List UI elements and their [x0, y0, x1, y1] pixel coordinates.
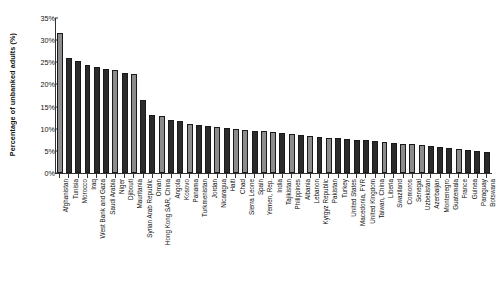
bar [140, 100, 146, 173]
bar [168, 120, 174, 173]
x-axis-tick-mark [254, 174, 255, 178]
x-axis-tick [371, 174, 380, 178]
x-axis-tick [157, 174, 166, 178]
x-axis-tick [352, 174, 361, 178]
x-axis-tick-mark [143, 174, 144, 178]
x-axis-tick [380, 174, 389, 178]
x-axis-tick-mark [152, 174, 153, 178]
x-axis-tick-mark [477, 174, 478, 178]
x-axis-tick [473, 174, 482, 178]
x-axis-tick-mark [291, 174, 292, 178]
x-axis-label-slot: Haiti [222, 179, 231, 287]
bar [363, 140, 369, 173]
x-axis-tick-mark [421, 174, 422, 178]
x-axis-tick [296, 174, 305, 178]
x-axis-tick [398, 174, 407, 178]
x-axis-tick-mark [133, 174, 134, 178]
x-axis-tick [204, 174, 213, 178]
bar-slot [408, 18, 417, 173]
x-axis-label-slot: Guatemala [445, 179, 454, 287]
x-axis-tick [176, 174, 185, 178]
bar-slot [315, 18, 324, 173]
bar-slot [92, 18, 101, 173]
x-axis-label-slot: Djibouti [120, 179, 129, 287]
x-axis-tick-mark [486, 174, 487, 178]
x-axis-label-slot: Tunisia [64, 179, 73, 287]
x-axis-tick-mark [189, 174, 190, 178]
bar-slot [157, 18, 166, 173]
bar-slot [74, 18, 83, 173]
x-axis-tick [417, 174, 426, 178]
x-axis-tick [315, 174, 324, 178]
x-axis-tick-mark [347, 174, 348, 178]
bar-slot [213, 18, 222, 173]
bar-slot [380, 18, 389, 173]
x-axis-label-slot: Niger [111, 179, 120, 287]
x-axis-tick-mark [226, 174, 227, 178]
x-axis-label-slot: Lebanon [306, 179, 315, 287]
x-axis-tick-mark [468, 174, 469, 178]
bar [298, 135, 304, 173]
x-axis-label-slot: Taiwan, China [371, 179, 380, 287]
x-axis-label-slot: Spain [250, 179, 259, 287]
x-axis-label-slot: India [268, 179, 277, 287]
bar [474, 151, 480, 173]
bar [409, 144, 415, 173]
x-axis-label-slot: Nicaragua [213, 179, 222, 287]
x-axis-tick [287, 174, 296, 178]
x-axis-label-slot: Montenegro [436, 179, 445, 287]
x-axis-tick-mark [430, 174, 431, 178]
x-axis-category-labels: AfghanistanTunisiaMoroccoIraqWest Bank a… [55, 179, 491, 287]
x-axis-tick [268, 174, 277, 178]
x-axis-tick [241, 174, 250, 178]
bar-slot [64, 18, 73, 173]
bar [326, 138, 332, 173]
bar-slot [101, 18, 110, 173]
x-axis-label-slot: Pakistan [324, 179, 333, 287]
bar-slot [306, 18, 315, 173]
y-axis-tick: 25% [41, 58, 55, 67]
x-axis-tick [361, 174, 370, 178]
x-axis-label-slot: Comoros [398, 179, 407, 287]
bar [196, 125, 202, 173]
x-axis-tick [306, 174, 315, 178]
x-axis-label-slot: Afghanistan [55, 179, 64, 287]
x-axis-label-slot: Oman [148, 179, 157, 287]
x-axis-label-slot: Tajikistan [278, 179, 287, 287]
bar-series [55, 18, 491, 173]
x-axis-tick-mark [198, 174, 199, 178]
x-axis-tick-mark [365, 174, 366, 178]
bar [85, 65, 91, 173]
x-axis-tick-mark [68, 174, 69, 178]
x-axis-tick [250, 174, 259, 178]
bar [224, 128, 230, 173]
bar [307, 136, 313, 173]
x-axis-tick-mark [300, 174, 301, 178]
x-axis-tick-mark [440, 174, 441, 178]
x-axis-label-slot: Angola [166, 179, 175, 287]
x-axis-tick [463, 174, 472, 178]
bar-slot [259, 18, 268, 173]
bar [437, 147, 443, 173]
bar [122, 73, 128, 173]
x-axis-tick [139, 174, 148, 178]
x-axis-tick-mark [96, 174, 97, 178]
bar [354, 140, 360, 173]
x-axis-tick [129, 174, 138, 178]
bar [400, 144, 406, 173]
bar [382, 142, 388, 173]
x-axis-label-slot: Hong Kong SAR, China [157, 179, 166, 287]
bar-slot [482, 18, 491, 173]
bar-slot [129, 18, 138, 173]
x-axis-tick-mark [412, 174, 413, 178]
bar-slot [83, 18, 92, 173]
bar [187, 124, 193, 173]
x-axis-tick [389, 174, 398, 178]
bar [428, 146, 434, 173]
x-axis-label-slot: Uzbekistan [417, 179, 426, 287]
bar [57, 33, 63, 173]
bar [261, 131, 267, 173]
bar-slot [204, 18, 213, 173]
x-axis-tick-mark [263, 174, 264, 178]
x-axis-label-slot: Chad [231, 179, 240, 287]
